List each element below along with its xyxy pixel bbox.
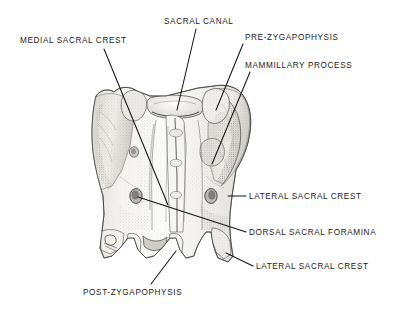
sacral-cornu-right (168, 233, 183, 258)
post-zygapophysis-leader (151, 251, 176, 284)
label-lateral-sacral-crest-upper: LATERAL SACRAL CREST (249, 192, 362, 201)
label-sacral-canal: SACRAL CANAL (164, 17, 233, 26)
left-inferior-lateral-angle (100, 230, 124, 254)
label-mammillary-process: MAMMILLARY PROCESS (245, 61, 352, 70)
label-medial-sacral-crest: MEDIAL SACRAL CREST (20, 36, 127, 45)
sacral-canal-opening (147, 95, 203, 118)
label-post-zygapophysis: POST-ZYGAPOPHYSIS (83, 288, 182, 297)
label-dorsal-sacral-foramina: DORSAL SACRAL FORAMINA (249, 228, 376, 237)
label-lateral-sacral-crest-lower: LATERAL SACRAL CREST (256, 262, 369, 271)
label-pre-zygapophysis: PRE-ZYGAPOPHYSIS (245, 33, 339, 42)
sacral-cornu-left (126, 233, 141, 258)
